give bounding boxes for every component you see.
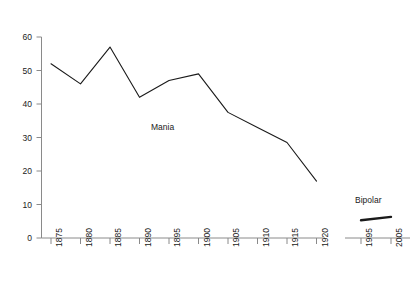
x-tick-label-2005: 2005 [395,228,404,247]
chart-container: 60 50 40 30 20 10 0 1875 1880 1885 1890 … [0,0,417,288]
y-tick-label-40: 40 [10,100,32,109]
y-tick-marks [37,37,42,238]
x-tick-label-1915: 1915 [291,228,300,247]
x-tick-label-1995: 1995 [365,228,374,247]
x-tick-label-1900: 1900 [203,228,212,247]
y-tick-label-10: 10 [10,201,32,210]
x-tick-label-1875: 1875 [55,228,64,247]
x-tick-label-1880: 1880 [85,228,94,247]
y-tick-label-0: 0 [10,234,32,243]
x-tick-label-1885: 1885 [114,228,123,247]
y-tick-label-50: 50 [10,67,32,76]
x-tick-label-1905: 1905 [232,228,241,247]
y-tick-label-20: 20 [10,167,32,176]
series-label-bipolar: Bipolar [355,196,381,205]
y-tick-label-60: 60 [10,33,32,42]
y-tick-label-30: 30 [10,134,32,143]
x-tick-label-1890: 1890 [144,228,153,247]
x-tick-label-1920: 1920 [321,228,330,247]
x-tick-label-1895: 1895 [173,228,182,247]
x-tick-label-1910: 1910 [262,228,271,247]
series-label-mania: Mania [151,123,174,132]
series-line-bipolar [361,217,391,220]
series-line-mania [51,47,317,181]
